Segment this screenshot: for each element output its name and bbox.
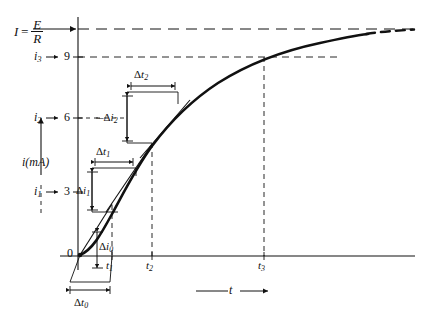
asymptote-label: I=ER (14, 18, 43, 46)
delta-i2-subscript: 2 (114, 116, 118, 125)
axis-lines (60, 17, 415, 270)
asymptote-fraction: ER (31, 18, 43, 46)
t2-subscript: 2 (149, 264, 153, 273)
asymptote-equals: = (18, 24, 31, 40)
delta-t1-subscript: 1 (106, 150, 110, 159)
marker-label-i1: i1 (34, 184, 42, 199)
current-curve-extension (366, 30, 414, 35)
marker-value-i2: 6 (64, 110, 70, 125)
delta-t0-subscript: 0 (84, 301, 88, 310)
delta-i2-prefix: –Δ (98, 111, 111, 123)
origin-point (78, 253, 83, 258)
origin-label: 0 (67, 246, 73, 261)
y-axis-label: i(mA) (22, 155, 49, 170)
marker-value-i1: 3 (64, 184, 70, 199)
increment-label-delta-t1: Δt1 (96, 145, 110, 159)
i3-subscript: 3 (37, 54, 41, 64)
marker-value-i3: 9 (64, 49, 70, 64)
i1-subscript: 1 (37, 189, 41, 199)
x-axis-label: t (229, 283, 232, 298)
increment-label-delta-t2: Δt2 (134, 68, 148, 82)
graph-svg (0, 0, 430, 320)
marker-arrows (46, 57, 58, 192)
tick-label-t1: t1 (106, 259, 113, 273)
figure-canvas: I=ER i3 9 i2 6 i1 3 i(mA) t 0 t1 t2 t3 Δ… (0, 0, 430, 320)
i2-subscript: 2 (37, 115, 41, 125)
tick-label-t3: t3 (258, 259, 265, 273)
delta-t2-subscript: 2 (144, 73, 148, 82)
marker-label-i2: i2 (34, 110, 42, 125)
current-curve (80, 34, 368, 255)
t3-subscript: 3 (261, 264, 265, 273)
marker-label-i3: i3 (34, 49, 42, 64)
asymptote-denominator: R (31, 32, 43, 45)
delta-i1-subscript: 1 (86, 189, 90, 198)
increment-label-delta-i0: Δi0 (99, 240, 113, 254)
delta-i0-subscript: 0 (109, 245, 113, 254)
asymptote-numerator: E (31, 18, 43, 32)
increment-label-delta-i1: Δi1 (76, 184, 90, 198)
increment-label-delta-i2: –Δi2 (98, 111, 118, 125)
tick-label-t2: t2 (146, 259, 153, 273)
t1-subscript: 1 (109, 264, 113, 273)
increment-label-delta-t0: Δt0 (74, 296, 88, 310)
